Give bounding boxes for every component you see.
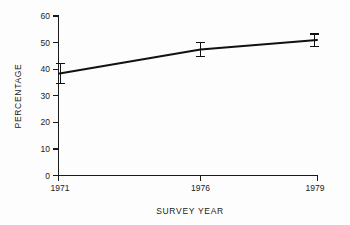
y-tick-label-60: 60 bbox=[41, 11, 51, 21]
y-axis-ticks: 0 10 20 30 40 50 60 bbox=[41, 11, 59, 181]
y-tick-label-30: 30 bbox=[41, 91, 51, 101]
y-tick-label-40: 40 bbox=[41, 64, 51, 74]
y-tick-label-0: 0 bbox=[45, 171, 50, 181]
y-axis-title: PERCENTAGE bbox=[13, 64, 23, 129]
x-tick-label-1979: 1979 bbox=[306, 183, 325, 193]
y-tick-label-10: 10 bbox=[41, 144, 51, 154]
line-chart: 0 10 20 30 40 50 60 1971 1976 1979 bbox=[0, 0, 350, 225]
x-tick-label-1976: 1976 bbox=[191, 183, 210, 193]
x-axis-ticks: 1971 1976 1979 bbox=[51, 176, 325, 194]
x-axis-title: SURVEY YEAR bbox=[156, 206, 224, 216]
y-tick-label-20: 20 bbox=[41, 117, 51, 127]
y-tick-label-50: 50 bbox=[41, 38, 51, 48]
x-tick-label-1971: 1971 bbox=[51, 183, 70, 193]
figure-container: 0 10 20 30 40 50 60 1971 1976 1979 bbox=[0, 0, 350, 225]
series-line-percentage bbox=[60, 40, 318, 74]
